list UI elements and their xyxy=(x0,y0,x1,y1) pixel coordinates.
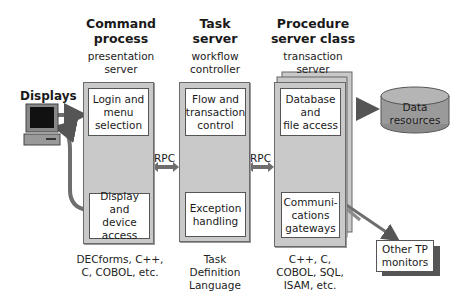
box-line: and xyxy=(301,106,321,119)
display-device-box: Display and device access xyxy=(89,193,150,239)
task-server-subtitle: workflow xyxy=(170,50,260,63)
box-line: Exception xyxy=(190,202,242,215)
procedure-server-title: Procedure xyxy=(258,16,368,31)
rpc-label-left: RPC xyxy=(154,152,175,164)
box-line: transaction xyxy=(186,106,245,119)
lang-line: C++, C, xyxy=(262,253,358,266)
command-process-languages: DECforms, C++, C, COBOL, etc. xyxy=(70,253,170,279)
command-process-header: Command process presentation server xyxy=(76,16,166,76)
box-line: Login and xyxy=(93,93,144,106)
box-line: menu xyxy=(104,106,134,119)
task-server-subtitle-2: controller xyxy=(170,63,260,76)
procedure-server-title-2: server class xyxy=(258,31,368,46)
cylinder-line: resources xyxy=(381,114,449,127)
box-line: selection xyxy=(95,119,142,132)
other-tp-monitors-box: Other TP monitors xyxy=(376,240,434,272)
task-server-header: Task server workflow controller xyxy=(170,16,260,76)
architecture-diagram: Displays Command process presentation se… xyxy=(0,0,458,304)
command-process-title-2: process xyxy=(76,31,166,46)
box-line: cations xyxy=(292,209,330,222)
displays-label: Displays xyxy=(20,89,68,104)
procedure-server-subtitle-2: server xyxy=(258,63,368,76)
box-line: Communi- xyxy=(283,196,337,209)
lang-line: DECforms, C++, xyxy=(70,253,170,266)
box-line: device xyxy=(102,216,137,229)
procedure-server-languages: C++, C, COBOL, SQL, ISAM, etc. xyxy=(262,253,358,292)
task-server-title-2: server xyxy=(170,31,260,46)
procedure-server-header: Procedure server class transaction serve… xyxy=(258,16,368,76)
command-process-title: Command xyxy=(76,16,166,31)
box-line: Other TP xyxy=(382,243,428,256)
box-line: file access xyxy=(283,119,338,132)
box-line: Database xyxy=(285,93,335,106)
lang-line: ISAM, etc. xyxy=(262,279,358,292)
database-access-box: Database and file access xyxy=(280,88,341,136)
task-server-languages: Task Definition Language xyxy=(170,253,260,292)
lang-line: Definition xyxy=(170,266,260,279)
display-terminal-icon xyxy=(24,104,60,145)
flow-control-box: Flow and transaction control xyxy=(185,88,246,136)
login-menu-box: Login and menu selection xyxy=(88,88,149,136)
command-process-subtitle: presentation xyxy=(76,50,166,63)
lang-line: Task xyxy=(170,253,260,266)
box-line: gateways xyxy=(285,222,335,235)
procedure-server-subtitle: transaction xyxy=(258,50,368,63)
exception-handling-box: Exception handling xyxy=(185,192,246,237)
task-server-title: Task xyxy=(170,16,260,31)
box-line: Display and xyxy=(90,190,149,216)
lang-line: COBOL, SQL, xyxy=(262,266,358,279)
lang-line: C, COBOL, etc. xyxy=(70,266,170,279)
box-line: control xyxy=(197,119,233,132)
rpc-label-right: RPC xyxy=(250,152,271,164)
cylinder-line: Data xyxy=(381,101,449,114)
communications-gateways-box: Communi- cations gateways xyxy=(281,192,340,238)
box-line: access xyxy=(102,229,137,242)
box-line: handling xyxy=(193,215,239,228)
lang-line: Language xyxy=(170,279,260,292)
data-resources-cylinder: Data resources xyxy=(381,101,449,127)
box-line: Flow and xyxy=(192,93,239,106)
box-line: monitors xyxy=(382,256,429,269)
command-process-subtitle-2: server xyxy=(76,63,166,76)
